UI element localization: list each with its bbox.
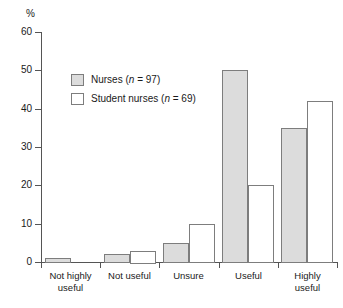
y-axis-tick xyxy=(35,109,41,110)
bar xyxy=(248,185,274,263)
x-axis-category-label: Highlyuseful xyxy=(278,270,337,293)
x-axis-tick xyxy=(41,262,42,268)
y-axis-unit-label: % xyxy=(26,8,35,19)
legend-swatch-student-nurses xyxy=(71,93,84,105)
legend-label-student-nurses: Student nurses (n = 69) xyxy=(91,93,196,105)
x-axis-tick xyxy=(100,262,101,268)
y-axis-tick-label: 0 xyxy=(8,257,32,267)
bar xyxy=(189,224,215,263)
bar xyxy=(45,258,71,263)
x-axis-tick xyxy=(159,262,160,268)
legend-label-nurses: Nurses (n = 97) xyxy=(91,74,160,86)
bar xyxy=(281,128,307,263)
x-axis-tick xyxy=(337,262,338,268)
chart-legend: Nurses (n = 97) Student nurses (n = 69) xyxy=(71,70,196,108)
x-axis-category-label: Useful xyxy=(219,270,278,282)
bar xyxy=(222,70,248,263)
y-axis-tick-label: 60 xyxy=(8,27,32,37)
y-axis-tick-label: 10 xyxy=(8,219,32,229)
x-axis-category-label: Not highlyuseful xyxy=(41,270,100,293)
legend-item-student-nurses: Student nurses (n = 69) xyxy=(71,89,196,108)
y-axis-tick xyxy=(35,32,41,33)
y-axis-tick xyxy=(35,147,41,148)
y-axis-line xyxy=(41,32,42,263)
y-axis-tick xyxy=(35,224,41,225)
y-axis-tick-label: 30 xyxy=(8,142,32,152)
y-axis-tick-label: 20 xyxy=(8,180,32,190)
bar xyxy=(307,101,333,263)
x-axis-tick xyxy=(219,262,220,268)
bar-chart: % 0102030405060 Not highlyusefulNot usef… xyxy=(0,0,343,308)
bar xyxy=(130,251,156,264)
y-axis-tick-label: 40 xyxy=(8,104,32,114)
y-axis-tick xyxy=(35,185,41,186)
bar xyxy=(104,254,130,263)
y-axis-tick-label: 50 xyxy=(8,65,32,75)
x-axis-category-label: Not useful xyxy=(100,270,159,282)
bar xyxy=(163,243,189,263)
x-axis-category-label: Unsure xyxy=(159,270,218,282)
legend-item-nurses: Nurses (n = 97) xyxy=(71,70,196,89)
x-axis-tick xyxy=(278,262,279,268)
legend-swatch-nurses xyxy=(71,74,84,86)
y-axis-tick xyxy=(35,70,41,71)
